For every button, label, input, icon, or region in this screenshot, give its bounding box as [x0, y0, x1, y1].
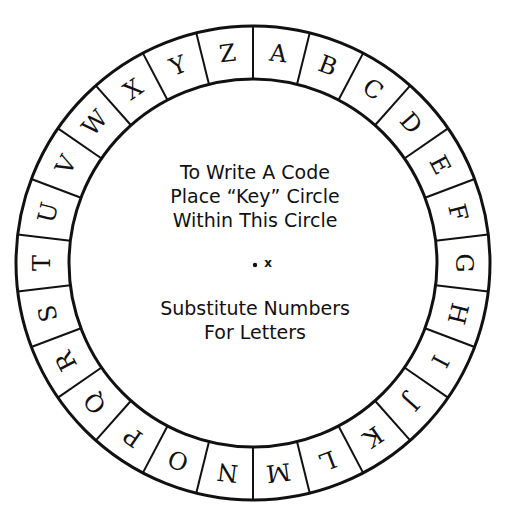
segment-divider [18, 285, 71, 291]
segment-dividers [18, 26, 489, 500]
segment-divider [297, 33, 310, 84]
letter-w: W [76, 104, 114, 141]
letter-z: Z [218, 39, 238, 69]
segment-divider [196, 33, 209, 84]
segment-divider [436, 234, 489, 240]
letter-p: P [119, 421, 148, 453]
instruction-line-3: Within This Circle [0, 208, 510, 232]
center-marker: x [263, 253, 273, 273]
letter-n: N [215, 457, 239, 487]
letter-j: J [397, 388, 426, 416]
segment-divider [18, 234, 71, 240]
letter-m: M [265, 457, 293, 488]
letter-x: X [118, 73, 148, 106]
instruction-line-4: Substitute Numbers [0, 296, 510, 320]
center-dot [253, 263, 257, 267]
letter-y: Y [165, 49, 192, 82]
letter-c: C [357, 73, 388, 106]
segment-divider [143, 53, 168, 100]
inner-ring [69, 79, 437, 447]
outer-ring [16, 26, 490, 500]
letter-r: R [49, 346, 83, 376]
instruction-line-2: Place “Key” Circle [0, 184, 510, 208]
letter-k: K [357, 420, 389, 454]
letter-o: O [164, 444, 192, 477]
letter-i: I [425, 350, 454, 371]
cipher-wheel: ABCDEFGHIJKLMNOPQRSTUVWXYZ [0, 0, 510, 526]
letter-g: G [450, 253, 478, 272]
letter-a: A [267, 38, 289, 68]
segment-divider [297, 442, 310, 493]
letter-q: Q [78, 386, 112, 419]
segment-divider [436, 285, 489, 291]
instruction-line-5: For Letters [0, 320, 510, 344]
instruction-line-1: To Write A Code [0, 160, 510, 184]
segment-divider [404, 368, 448, 398]
segment-divider [196, 442, 209, 493]
letter-b: B [315, 49, 341, 81]
letter-l: L [315, 444, 340, 476]
letter-segments: ABCDEFGHIJKLMNOPQRSTUVWXYZ [28, 38, 478, 487]
letter-d: D [394, 107, 428, 140]
letter-t: T [28, 255, 56, 271]
